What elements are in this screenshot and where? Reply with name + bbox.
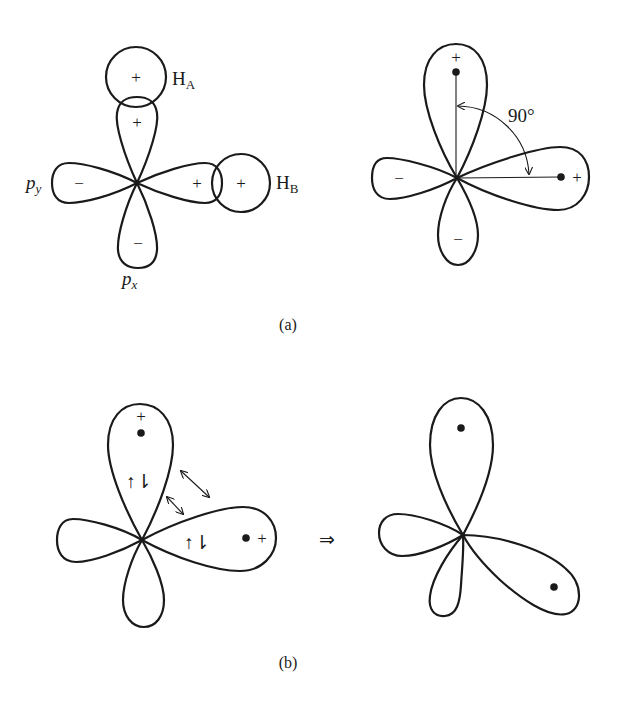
- hb-label: HB: [276, 172, 299, 196]
- lobe-up-sign: +: [136, 407, 146, 426]
- nucleus-dot-up: [457, 424, 465, 432]
- transition-arrow: ⇒: [319, 529, 335, 550]
- lobe-right-sign: +: [257, 529, 267, 548]
- bond-axis-horizontal: [457, 177, 561, 178]
- py-lobe-left: [52, 163, 137, 203]
- lobe-left-sign: −: [74, 174, 84, 193]
- lobe-down-sign: −: [453, 230, 463, 249]
- panel-a-left: + + + + − − HA HB py px: [24, 47, 299, 292]
- lobe-right-sign: +: [192, 174, 202, 193]
- px-lobe-down: [118, 183, 157, 268]
- lobe-down: [430, 535, 464, 616]
- lobe-up: [430, 398, 493, 535]
- lobe-down: [123, 540, 164, 627]
- px-lobe-up: [117, 97, 158, 183]
- angle-label: 90°: [508, 105, 535, 126]
- hb-sign: +: [236, 174, 246, 193]
- lobe-right: [457, 147, 589, 210]
- nucleus-dot-right: [557, 173, 565, 181]
- nucleus-dot-up: [452, 68, 460, 76]
- lobe-right-lower: [463, 535, 579, 615]
- nucleus-dot-right: [550, 583, 558, 591]
- ha-label: HA: [172, 68, 196, 92]
- py-lobe-right: [137, 163, 222, 203]
- lobe-down-sign: −: [133, 234, 143, 253]
- electron-pair-up: ↑⇂: [126, 471, 152, 492]
- lobe-up-sign: +: [132, 113, 142, 132]
- panel-a-right: + + − − 90°: [372, 44, 589, 265]
- repulsion-arrow-outer: [181, 471, 209, 497]
- px-label: px: [120, 268, 138, 292]
- panel-b-left: + + ↑⇂ ↑⇂: [57, 404, 276, 627]
- nucleus-dot-up: [137, 429, 145, 437]
- lobe-down: [438, 178, 478, 265]
- lobe-left: [372, 158, 457, 199]
- py-label: py: [24, 172, 42, 196]
- caption-a: (a): [279, 316, 297, 334]
- orbital-diagram: + + + + − − HA HB py px + + − − 90° (a): [0, 0, 626, 703]
- lobe-left-sign: −: [394, 169, 404, 188]
- lobe-right-sign: +: [572, 168, 582, 187]
- panel-b-right: [379, 398, 579, 616]
- lobe-left: [57, 519, 142, 562]
- lobe-up-sign: +: [451, 48, 461, 67]
- ha-sign: +: [131, 68, 141, 87]
- repulsion-arrow-inner: [167, 497, 183, 514]
- caption-b: (b): [279, 654, 298, 672]
- electron-pair-right: ↑⇂: [184, 532, 210, 553]
- nucleus-dot-right: [242, 534, 250, 542]
